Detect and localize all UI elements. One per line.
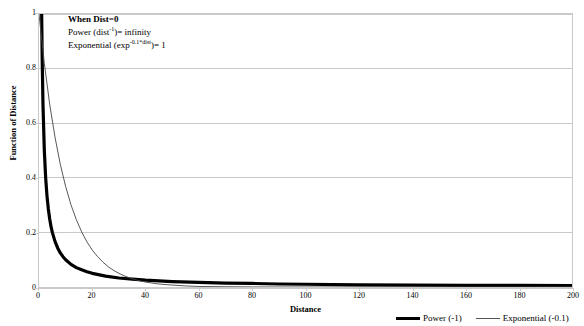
series-line [39, 14, 572, 287]
x-axis-tick-label: 200 [553, 291, 584, 300]
x-axis-tick-labels: 020406080100120140160180200 [38, 291, 573, 303]
chart-container: 00.20.40.60.81 Function of Distance 0204… [0, 0, 584, 326]
plot-area [38, 13, 573, 288]
y-axis-tick-label: 1 [2, 9, 36, 17]
y-axis-tick-labels: 00.20.40.60.81 [0, 13, 36, 288]
annotation-power-line: Power (dist-1)= infinity [68, 26, 288, 39]
legend-entry[interactable]: Exponential (-0.1) [476, 313, 569, 323]
x-axis-tick-label: 180 [500, 291, 540, 300]
x-axis-tick-label: 40 [125, 291, 165, 300]
annotation-block: When Dist=0 Power (dist-1)= infinity Exp… [68, 13, 288, 52]
x-axis-tick-label: 140 [393, 291, 433, 300]
x-axis-tick-label: 0 [18, 291, 58, 300]
x-axis-tick-label: 80 [232, 291, 272, 300]
annotation-exp-prefix: Exponential (exp [68, 40, 130, 50]
x-axis-tick-label: 100 [286, 291, 326, 300]
gridlines [39, 14, 572, 287]
series-lines [39, 14, 572, 287]
annotation-power-prefix: Power (dist [68, 27, 109, 37]
legend-line-swatch [476, 318, 500, 319]
series-line [42, 14, 572, 286]
y-axis-tick-label: 0.2 [2, 229, 36, 237]
annotation-exp-suffix: )= 1 [151, 40, 166, 50]
x-axis-tick-label: 120 [339, 291, 379, 300]
plot-svg [39, 14, 572, 287]
y-axis-title: Function of Distance [8, 63, 18, 183]
legend-line-swatch [396, 317, 420, 320]
legend-label: Power (-1) [423, 313, 462, 323]
annotation-title: When Dist=0 [68, 13, 288, 26]
annotation-exponential-line: Exponential (exp-0.1*dist)= 1 [68, 39, 288, 52]
x-axis-tick-label: 160 [446, 291, 486, 300]
legend-entry[interactable]: Power (-1) [396, 313, 462, 323]
annotation-power-suffix: )= infinity [114, 27, 151, 37]
x-axis-tick-label: 20 [72, 291, 112, 300]
annotation-exp-exponent: -0.1*dist [130, 39, 151, 45]
legend-label: Exponential (-0.1) [503, 313, 569, 323]
x-axis-tick-label: 60 [179, 291, 219, 300]
chart-legend: Power (-1)Exponential (-0.1) [396, 311, 583, 325]
